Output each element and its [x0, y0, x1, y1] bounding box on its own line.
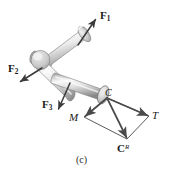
vector-cr	[107, 98, 127, 138]
shaft-segment-upper	[44, 24, 93, 68]
vector-f2	[21, 68, 43, 82]
shaft-elbow-left	[31, 50, 50, 69]
mechanics-figure	[0, 0, 171, 175]
vector-t	[107, 98, 148, 116]
shaft-body	[30, 24, 111, 105]
couple-vectors	[86, 98, 148, 138]
vector-m	[86, 98, 108, 116]
